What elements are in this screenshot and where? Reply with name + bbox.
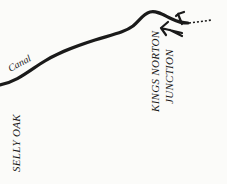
kings-norton-label: KINGS NORTON [149,31,161,112]
dotted-continuation [189,20,212,23]
canal-map [0,0,227,184]
selly-oak-label: SELLY OAK [10,114,22,172]
arrow-icon [161,22,182,36]
junction-label: JUNCTION [163,49,175,104]
